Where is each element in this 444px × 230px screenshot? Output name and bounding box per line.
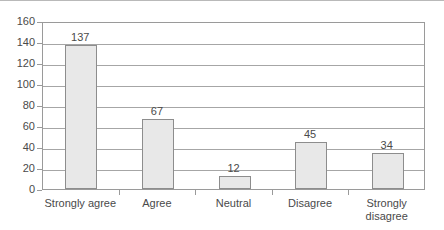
x-tick-mark	[272, 190, 273, 195]
x-tick-mark	[348, 190, 349, 195]
bar	[295, 142, 327, 189]
x-axis-category-label: Strongly disagree	[348, 197, 425, 223]
y-axis-tick-label: 40	[23, 142, 35, 153]
y-tick-mark	[37, 190, 42, 191]
bar-value-label: 45	[285, 129, 335, 140]
y-axis-tick-label: 60	[23, 121, 35, 132]
bar-value-label: 137	[55, 32, 105, 43]
top-divider-rule	[0, 0, 444, 1]
x-axis-category-label: Neutral	[195, 197, 272, 210]
x-tick-mark	[119, 190, 120, 195]
bar-value-label: 12	[209, 163, 259, 174]
y-axis-tick-label: 100	[17, 79, 35, 90]
y-axis-tick-label: 20	[23, 163, 35, 174]
gridline	[43, 65, 424, 66]
bar	[219, 176, 251, 189]
bar	[372, 153, 404, 189]
x-axis-category-label: Agree	[119, 197, 196, 210]
y-axis-tick-label: 80	[23, 100, 35, 111]
bar-chart: 020406080100120140160 Strongly agreeAgre…	[0, 0, 444, 230]
gridline	[43, 44, 424, 45]
x-axis-category-label: Strongly agree	[42, 197, 119, 210]
y-axis-tick-label: 160	[17, 16, 35, 27]
y-axis-tick-label: 140	[17, 37, 35, 48]
gridline	[43, 128, 424, 129]
bar-value-label: 67	[132, 106, 182, 117]
gridline	[43, 107, 424, 108]
x-axis-category-label: Disagree	[272, 197, 349, 210]
gridline	[43, 86, 424, 87]
bar	[142, 119, 174, 189]
x-tick-mark	[195, 190, 196, 195]
bar	[65, 45, 97, 189]
bar-value-label: 34	[362, 140, 412, 151]
y-axis-tick-label: 120	[17, 58, 35, 69]
y-axis-tick-label: 0	[29, 184, 35, 195]
